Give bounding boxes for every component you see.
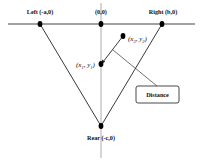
left-point-dot [38,21,43,27]
p1-p2-segment [103,36,123,62]
origin-point-dot [99,21,104,27]
distance-pointer-line [113,50,157,86]
origin-point-label: (0,0) [95,8,107,16]
left-to-rear-line [40,24,101,126]
sensor-geometry-diagram: Distance Left (-a,0) (0,0) Right (b,0) R… [0,0,201,162]
p2-point-dot [121,33,126,39]
right-point-label: Right (b,0) [149,8,178,16]
p1-point-dot [99,61,104,67]
right-point-dot [160,21,165,27]
left-point-label: Left (-a,0) [27,8,53,16]
distance-label: Distance [146,91,169,98]
rear-point-dot [99,123,104,129]
p2-point-label: (x2, y2) [128,35,148,44]
rear-point-label: Rear (-c,0) [87,134,115,142]
p1-point-label: (x1, y1) [76,61,96,70]
